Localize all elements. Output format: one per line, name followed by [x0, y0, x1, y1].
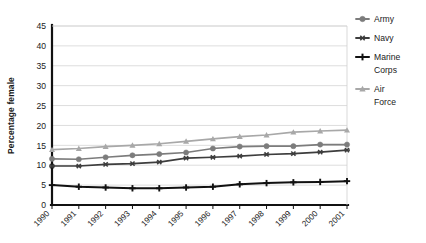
- data-point-circle: [237, 144, 242, 149]
- x-axis-tick-label: 2001: [327, 209, 347, 229]
- x-axis-tick-label: 1993: [113, 209, 133, 229]
- legend-label-force: Force: [374, 97, 396, 107]
- legend-label-navy: Navy: [374, 33, 394, 43]
- y-axis-tick-label: 20: [36, 121, 46, 131]
- y-axis-tick-label: 10: [36, 160, 46, 170]
- data-point-circle: [210, 146, 215, 151]
- x-axis-tick-label: 1997: [220, 209, 240, 229]
- series-line-air-force: [52, 130, 347, 149]
- legend-label-air: Air: [374, 84, 385, 94]
- x-axis-tick-label: 1999: [274, 209, 294, 229]
- x-axis-tick-label: 1996: [193, 209, 213, 229]
- data-point-circle: [49, 156, 54, 161]
- data-point-circle: [157, 151, 162, 156]
- line-chart: 0510152025303540451990199119921993199419…: [0, 0, 426, 243]
- data-point-circle: [76, 157, 81, 162]
- x-axis-tick-label: 1998: [247, 209, 267, 229]
- legend-label-corps: Corps: [374, 65, 397, 75]
- data-point-circle: [291, 144, 296, 149]
- y-axis-tick-label: 0: [41, 200, 46, 210]
- y-axis-tick-label: 30: [36, 81, 46, 91]
- y-axis-tick-label: 40: [36, 41, 46, 51]
- data-point-circle: [103, 155, 108, 160]
- y-axis-title: Percentage female: [6, 77, 16, 154]
- x-axis-tick-label: 1995: [166, 209, 186, 229]
- x-axis-tick-label: 1991: [59, 209, 79, 229]
- y-axis-tick-label: 15: [36, 141, 46, 151]
- data-point-circle: [318, 142, 323, 147]
- data-point-circle: [360, 16, 365, 21]
- data-point-circle: [130, 153, 135, 158]
- x-axis-tick-label: 2000: [300, 209, 320, 229]
- x-axis-tick-label: 1992: [86, 209, 106, 229]
- y-axis-tick-label: 5: [41, 180, 46, 190]
- legend-label-army: Army: [374, 14, 395, 24]
- y-axis-tick-label: 45: [36, 21, 46, 31]
- data-point-circle: [344, 142, 349, 147]
- legend-label-marine: Marine: [374, 52, 400, 62]
- chart-canvas: 0510152025303540451990199119921993199419…: [0, 0, 426, 243]
- x-axis-tick-label: 1990: [32, 209, 52, 229]
- x-axis-tick-label: 1994: [139, 209, 159, 229]
- data-point-circle: [183, 150, 188, 155]
- y-axis-tick-label: 35: [36, 61, 46, 71]
- data-point-circle: [264, 144, 269, 149]
- series-line-marine-corps: [52, 181, 347, 188]
- y-axis-tick-label: 25: [36, 101, 46, 111]
